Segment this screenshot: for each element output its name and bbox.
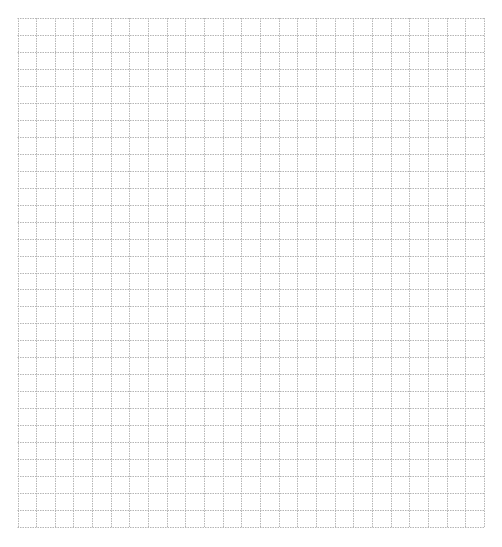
graph-paper-grid bbox=[0, 0, 502, 547]
